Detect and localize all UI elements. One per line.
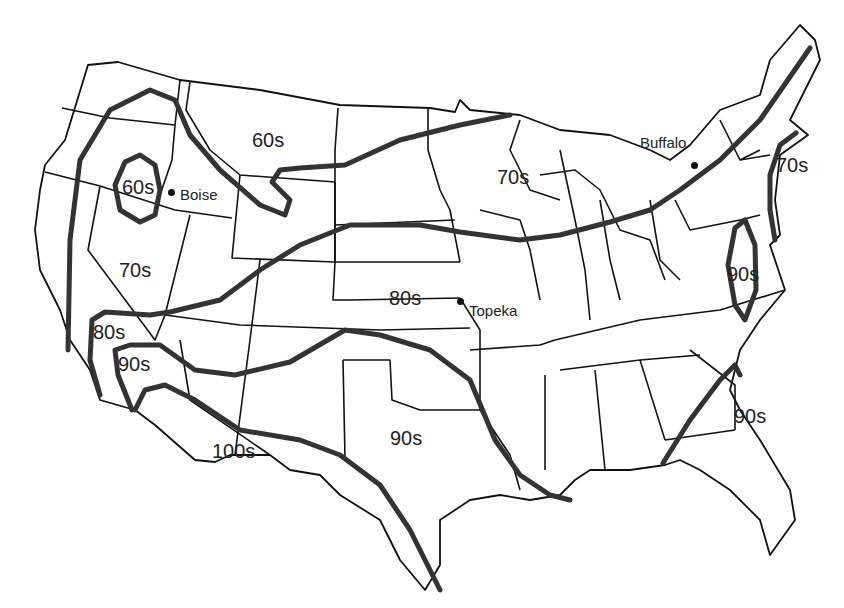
city-dot-topeka	[457, 298, 464, 305]
isotherm-label-60s-oregon: 60s	[122, 177, 154, 197]
us-temperature-map: 60s 60s 70s 70s 70s 80s 80s 90s 90s 90s …	[0, 0, 844, 608]
isotherm-label-80s-california: 80s	[93, 322, 125, 342]
isotherm-label-70s-wisconsin: 70s	[497, 167, 529, 187]
isotherm-label-80s-kansas: 80s	[389, 288, 421, 308]
city-dot-buffalo	[691, 162, 698, 169]
isotherm-label-70s-newengland: 70s	[776, 155, 808, 175]
isotherm-label-70s-nevada: 70s	[119, 260, 151, 280]
isotherm-label-90s-california: 90s	[118, 354, 150, 374]
isotherm-label-100s-arizona: 100s	[212, 441, 255, 461]
city-dot-boise	[168, 189, 175, 196]
isotherm-label-60s-montana: 60s	[252, 130, 284, 150]
isotherm-label-90s-virginia: 90s	[727, 264, 759, 284]
map-canvas	[0, 0, 844, 608]
city-label-boise: Boise	[180, 187, 218, 202]
city-label-buffalo: Buffalo	[640, 135, 686, 150]
isotherm-label-90s-georgia: 90s	[734, 406, 766, 426]
isotherm-label-90s-texas: 90s	[390, 428, 422, 448]
city-label-topeka: Topeka	[469, 303, 517, 318]
